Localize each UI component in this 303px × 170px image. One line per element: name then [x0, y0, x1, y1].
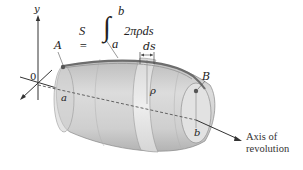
a-label: a: [61, 93, 67, 103]
integrand: 2πρds: [124, 24, 154, 39]
ds-label: ds: [143, 41, 156, 52]
point-a-label: A: [54, 40, 62, 51]
y-axis-label: y: [34, 4, 40, 14]
leader-a: [58, 52, 63, 65]
integral-sign: ∫: [103, 11, 111, 43]
point-a-marker: [61, 65, 65, 69]
surface-of-revolution-diagram: S = ∫ b a 2πρds y 0 A B a b ρ ds Axis of…: [0, 0, 303, 170]
formula-lhs: S =: [79, 24, 87, 54]
axis-label-line2: revolution: [246, 143, 289, 155]
origin-label: 0: [30, 72, 36, 82]
point-b-marker: [194, 89, 198, 93]
axis-label-line1: Axis of: [246, 131, 289, 143]
point-b-label: B: [202, 71, 210, 82]
x-axis-stub: [20, 77, 60, 89]
axis-of-revolution-label: Axis of revolution: [246, 131, 289, 155]
solid-of-revolution: [54, 58, 215, 152]
y-axis: [36, 15, 40, 100]
integral-upper-limit: b: [118, 4, 124, 19]
integral-lower-limit: a: [112, 37, 118, 52]
rho-label: ρ: [150, 86, 156, 96]
b-label: b: [194, 128, 200, 138]
